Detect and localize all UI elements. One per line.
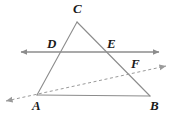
triangle-side-AC [37,22,77,95]
point-label-C: C [73,2,82,15]
triangle-side-AB [37,95,150,96]
geometry-diagram: C D E F A B [0,0,180,121]
point-label-F: F [131,57,140,70]
point-label-B: B [150,99,159,112]
point-label-A: A [32,99,41,112]
point-label-D: D [47,37,56,50]
point-label-E: E [107,37,116,50]
